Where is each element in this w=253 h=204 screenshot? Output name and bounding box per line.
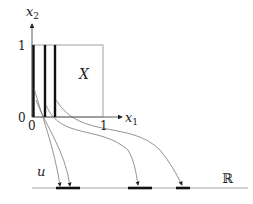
tick-x1: 1: [100, 119, 108, 133]
unit-square: [32, 45, 103, 117]
tick-y0: 0: [18, 111, 26, 125]
map-label: u: [37, 164, 45, 179]
map-arrow-4: [56, 100, 182, 185]
diagram-canvas: x2 x1 1 0 0 1 X u ℝ: [0, 0, 253, 204]
x-axis-label: x1: [125, 110, 138, 127]
y-axis-label: x2: [26, 4, 39, 21]
tick-y1: 1: [18, 39, 26, 53]
tick-x0: 0: [28, 119, 36, 133]
region-label: X: [78, 66, 90, 82]
codomain-label: ℝ: [222, 171, 234, 186]
